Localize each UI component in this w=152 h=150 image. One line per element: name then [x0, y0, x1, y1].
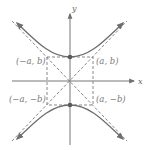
x-axis-label: x	[138, 77, 143, 86]
vertex-top	[68, 55, 73, 60]
diagram-canvas: y x (−a, b) (a, b) (−a, −b) (a, −b)	[0, 0, 152, 150]
label-top-right: (a, b)	[96, 56, 119, 66]
hyperbola-diagram: y x (−a, b) (a, b) (−a, −b) (a, −b)	[0, 0, 152, 150]
label-bottom-right: (a, −b)	[96, 94, 126, 104]
vertex-bottom	[68, 103, 73, 108]
label-bottom-left: (−a, −b)	[9, 94, 46, 104]
label-top-left: (−a, b)	[16, 56, 46, 66]
y-axis-label: y	[71, 4, 77, 13]
